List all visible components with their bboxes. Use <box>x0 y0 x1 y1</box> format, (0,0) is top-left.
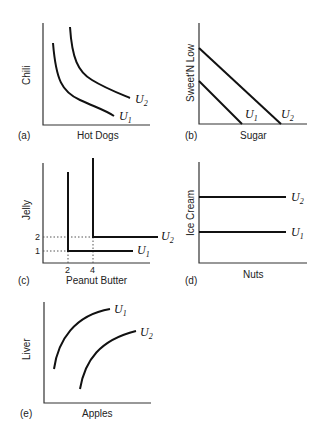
panel-tag: (d) <box>185 275 197 286</box>
x-axis-label: Sugar <box>240 130 267 141</box>
panel-tag: (e) <box>20 408 32 419</box>
curve-label-u1: U1 <box>291 225 304 241</box>
panel-a: U1 U2 Chili Hot Dogs (a) <box>18 23 150 141</box>
panel-tag: (c) <box>18 275 30 286</box>
x-axis-label: Nuts <box>243 269 264 280</box>
curve-label-u1: U1 <box>137 243 150 259</box>
panel-d: U1 U2 Ice Cream Nuts (d) <box>185 162 307 286</box>
axes <box>199 162 307 263</box>
curve-label-u1: U1 <box>114 302 127 318</box>
curve-u2 <box>70 27 130 98</box>
y-axis-label: Chili <box>21 66 32 85</box>
curve-u1 <box>53 43 114 116</box>
y-axis-label: Liver <box>21 338 32 360</box>
y-axis-label: Ice Cream <box>185 190 196 236</box>
curve-u2 <box>93 158 158 237</box>
curve-u1 <box>199 81 242 124</box>
panel-tag: (a) <box>18 130 30 141</box>
curve-label-u2: U2 <box>135 92 148 108</box>
x-axis-label: Peanut Butter <box>66 275 128 286</box>
panel-e: U1 U2 Liver Apples (e) <box>20 302 153 419</box>
axes <box>43 163 150 263</box>
axes <box>43 23 150 125</box>
x-tick-4: 4 <box>90 265 95 275</box>
curve-label-u2: U2 <box>161 229 174 245</box>
y-axis-label: Sweet'N Low <box>185 43 196 102</box>
panel-c: U1 U2 1 2 2 4 Jelly Peanut Butter (c) <box>18 158 174 286</box>
curve-u2 <box>199 48 281 124</box>
curve-label-u1: U1 <box>245 107 258 123</box>
curve-u1 <box>54 309 110 369</box>
y-tick-1: 1 <box>35 246 40 256</box>
curve-u1 <box>68 172 133 251</box>
y-tick-2: 2 <box>35 232 40 242</box>
panel-tag: (b) <box>185 130 197 141</box>
x-axis-label: Apples <box>82 408 113 419</box>
curve-label-u2: U2 <box>291 190 304 206</box>
y-axis-label: Jelly <box>21 200 32 220</box>
curve-label-u2: U2 <box>140 325 153 341</box>
curve-label-u2: U2 <box>281 107 294 123</box>
indifference-curves-figure: U1 U2 Chili Hot Dogs (a) U1 U2 Sweet'N L… <box>0 0 326 434</box>
curve-u2 <box>80 331 136 389</box>
panel-b: U1 U2 Sweet'N Low Sugar (b) <box>185 23 307 141</box>
x-axis-label: Hot Dogs <box>77 130 119 141</box>
x-tick-2: 2 <box>65 265 70 275</box>
curve-label-u1: U1 <box>119 109 132 125</box>
